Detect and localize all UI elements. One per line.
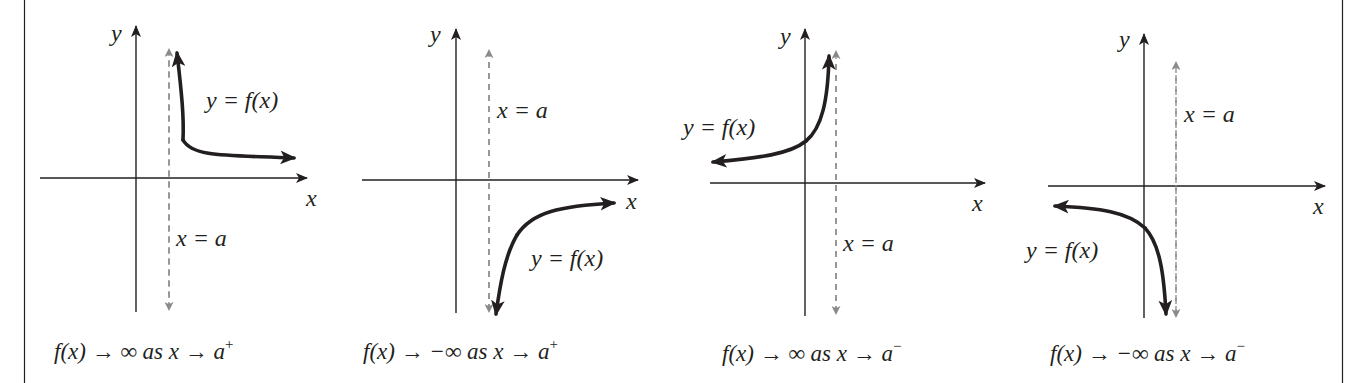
x-axis-label: x: [625, 188, 637, 214]
caption-superscript: −: [1237, 338, 1245, 354]
curve-left-arrow: [1055, 206, 1145, 228]
curve-label: y = f(x): [681, 114, 755, 140]
curve-right-arrow: [517, 203, 614, 235]
asymptote-label: x = a: [175, 225, 227, 251]
caption: f(x) → ∞ as x → a+: [54, 336, 233, 364]
panel-1: y x y = f(x) x = a f(x) → ∞ as x → a+: [40, 20, 317, 364]
curve-label: y = f(x): [1024, 237, 1098, 263]
asymptote-label: x = a: [842, 230, 894, 256]
asymptote-figure: y x y = f(x) x = a f(x) → ∞ as x → a+ y …: [0, 0, 1369, 383]
caption: f(x) → −∞ as x → a+: [363, 336, 558, 364]
caption: f(x) → ∞ as x → a−: [722, 338, 901, 366]
caption-superscript: −: [893, 338, 901, 354]
curve-label: y = f(x): [204, 87, 278, 113]
caption-text: f(x) → −∞ as x → a: [363, 339, 550, 364]
x-axis-label: x: [1312, 193, 1324, 219]
caption-text: f(x) → ∞ as x → a: [722, 341, 893, 366]
curve-up-arrow: [806, 56, 829, 141]
caption-text: f(x) → −∞ as x → a: [1050, 341, 1237, 366]
curve-up-arrow: [177, 53, 183, 140]
curve-label: y = f(x): [529, 245, 603, 271]
panel-3: y x y = f(x) x = a f(x) → ∞ as x → a−: [681, 23, 985, 366]
curve-right-arrow: [183, 140, 294, 158]
curve-down-arrow: [496, 235, 517, 314]
caption-superscript: +: [550, 336, 558, 352]
x-axis-label: x: [971, 190, 983, 216]
y-axis-label: y: [1117, 26, 1130, 52]
curve-down-arrow: [1145, 228, 1166, 314]
caption-superscript: +: [225, 336, 233, 352]
caption: f(x) → −∞ as x → a−: [1050, 338, 1245, 366]
asymptote-label: x = a: [496, 97, 548, 123]
y-axis-label: y: [428, 21, 441, 47]
asymptote-label: x = a: [1183, 101, 1235, 127]
caption-text: f(x) → ∞ as x → a: [54, 339, 225, 364]
panel-4: y x x = a y = f(x) f(x) → −∞ as x → a−: [1024, 26, 1325, 366]
x-axis-label: x: [305, 185, 317, 211]
curve-left-arrow: [713, 141, 806, 162]
panel-2: y x x = a y = f(x) f(x) → −∞ as x → a+: [362, 21, 638, 364]
y-axis-label: y: [109, 20, 122, 46]
y-axis-label: y: [778, 23, 791, 49]
